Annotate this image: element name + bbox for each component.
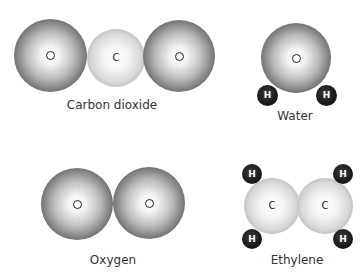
molecule-label: Water — [277, 109, 312, 123]
oxygen-atom — [41, 168, 113, 240]
molecule-label: Oxygen — [90, 253, 136, 267]
hydrogen-atom: H — [333, 164, 353, 184]
oxygen-symbol-icon — [145, 199, 154, 208]
carbon-atom: C — [297, 178, 353, 234]
oxygen-atom — [14, 19, 87, 92]
carbon-symbol: C — [269, 201, 276, 211]
carbon-symbol: C — [113, 53, 120, 63]
hydrogen-symbol: H — [264, 91, 272, 100]
hydrogen-symbol: H — [323, 91, 331, 100]
oxygen-symbol-icon — [73, 200, 82, 209]
hydrogen-atom: H — [333, 229, 353, 249]
oxygen-symbol-icon — [292, 54, 301, 63]
carbon-symbol: C — [322, 201, 329, 211]
hydrogen-atom: H — [257, 85, 278, 106]
oxygen-atom — [143, 20, 215, 92]
carbon-atom: C — [87, 29, 145, 87]
oxygen-symbol-icon — [46, 51, 55, 60]
molecule-label: Ethylene — [271, 253, 324, 267]
hydrogen-symbol: H — [339, 170, 347, 179]
oxygen-symbol-icon — [175, 52, 184, 61]
hydrogen-symbol: H — [248, 235, 256, 244]
hydrogen-symbol: H — [339, 235, 347, 244]
hydrogen-atom: H — [316, 85, 337, 106]
hydrogen-atom: H — [242, 164, 262, 184]
hydrogen-atom: H — [242, 229, 262, 249]
molecule-label: Carbon dioxide — [67, 98, 157, 112]
hydrogen-symbol: H — [248, 170, 256, 179]
carbon-atom: C — [244, 178, 300, 234]
oxygen-atom — [113, 167, 185, 239]
oxygen-atom — [261, 23, 331, 93]
